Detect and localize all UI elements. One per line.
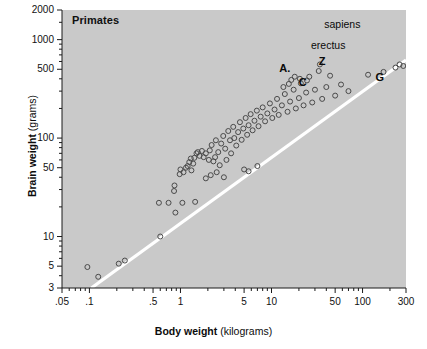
data-point: [208, 173, 213, 178]
data-point: [166, 200, 171, 205]
data-point: [180, 200, 185, 205]
panel-title: Primates: [72, 14, 119, 26]
y-tick-label: 50: [43, 163, 54, 173]
x-tick-label: 300: [386, 297, 426, 307]
data-point: [272, 107, 277, 112]
data-point: [96, 274, 101, 279]
data-point: [243, 115, 248, 120]
annotation-c: C: [299, 77, 307, 88]
data-point: [213, 138, 218, 143]
data-point: [316, 69, 321, 74]
data-point: [312, 87, 317, 92]
data-point: [209, 143, 214, 148]
data-point: [250, 128, 255, 133]
data-point: [193, 199, 198, 204]
data-point: [189, 168, 194, 173]
y-tick-label: 5: [48, 261, 54, 271]
y-axis-title: Brain weight (grams): [26, 46, 38, 246]
data-point: [219, 141, 224, 146]
data-point: [366, 72, 371, 77]
plot-area: [62, 10, 406, 288]
data-point: [221, 175, 226, 180]
y-tick-label: 500: [37, 64, 54, 74]
annotation-sapiens: sapiens: [324, 18, 360, 29]
data-point: [270, 115, 275, 120]
data-point: [229, 151, 234, 156]
y-tick-label: 1000: [32, 35, 54, 45]
data-point: [301, 103, 306, 108]
data-point: [256, 124, 261, 129]
x-tick-label: 1: [160, 297, 200, 307]
y-axis-title-unit: (grams): [26, 95, 38, 131]
data-point: [172, 189, 177, 194]
data-point: [254, 108, 259, 113]
data-point: [245, 132, 250, 137]
annotation-a: A.: [279, 62, 290, 73]
x-axis-title: Body weight (kilograms): [0, 325, 427, 337]
data-point: [260, 105, 265, 110]
data-point: [328, 73, 333, 78]
data-point: [234, 143, 239, 148]
data-point: [217, 163, 222, 168]
data-point: [236, 130, 241, 135]
data-point: [237, 120, 242, 125]
data-point: [324, 85, 329, 90]
plot-canvas: [62, 10, 406, 288]
data-point: [214, 170, 219, 175]
data-point: [265, 111, 270, 116]
data-point: [291, 87, 296, 92]
data-point: [286, 81, 291, 86]
data-point: [216, 150, 221, 155]
data-point: [178, 167, 183, 172]
data-point: [172, 183, 177, 188]
data-point: [232, 136, 237, 141]
data-point: [285, 109, 290, 114]
data-point: [281, 85, 286, 90]
data-point: [293, 106, 298, 111]
x-axis-title-unit: (kilograms): [220, 325, 272, 337]
annotation-erectus: erectus: [311, 40, 345, 51]
data-point: [252, 118, 257, 123]
data-point: [310, 100, 315, 105]
x-tick-label: 100: [343, 297, 383, 307]
data-point: [207, 148, 212, 153]
data-point: [173, 210, 178, 215]
data-point: [263, 119, 268, 124]
annotation-z: Z: [319, 55, 326, 66]
data-point: [221, 133, 226, 138]
data-point: [320, 96, 325, 101]
data-point: [267, 101, 272, 106]
y-tick-label: 3: [48, 283, 54, 293]
data-point: [116, 261, 121, 266]
y-tick-label: 10: [43, 232, 54, 242]
x-tick-label: 10: [252, 297, 292, 307]
data-point: [296, 96, 301, 101]
data-point: [223, 146, 228, 151]
data-point: [246, 123, 251, 128]
x-tick-label: .1: [69, 297, 109, 307]
data-point: [156, 200, 161, 205]
data-point: [203, 176, 208, 181]
data-point: [241, 126, 246, 131]
annotation-g: G: [376, 71, 385, 82]
data-point: [85, 265, 90, 270]
y-tick-label: 100: [37, 133, 54, 143]
data-point: [258, 114, 263, 119]
data-point: [276, 112, 281, 117]
data-point: [231, 124, 236, 129]
data-point: [304, 90, 309, 95]
data-point: [339, 82, 344, 87]
data-point: [279, 103, 284, 108]
y-tick-label: 2000: [32, 5, 54, 15]
brain-body-weight-scatter-figure: Primates 35105010050010002000.05.1.51510…: [0, 0, 427, 349]
y-axis-title-main: Brain weight: [26, 134, 38, 197]
data-point: [333, 93, 338, 98]
data-point: [346, 89, 351, 94]
data-point: [282, 92, 287, 97]
data-point: [224, 157, 229, 162]
data-point: [288, 99, 293, 104]
x-axis-title-main: Body weight: [155, 325, 217, 337]
data-point: [248, 112, 253, 117]
data-point: [275, 96, 280, 101]
data-point: [226, 129, 231, 134]
